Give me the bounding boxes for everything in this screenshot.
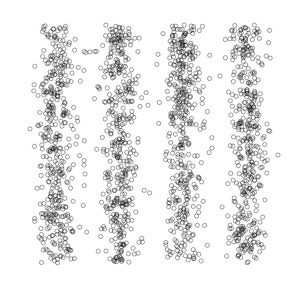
scatter-plot: [0, 0, 295, 285]
